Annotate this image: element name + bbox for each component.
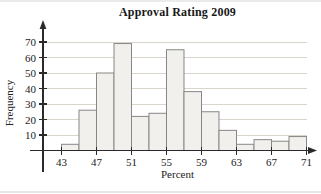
histogram-figure: Approval Rating 2009 Frequency 102030405…: [0, 0, 321, 194]
x-tick-label-47: 47: [91, 156, 103, 168]
bar-67-69: [272, 141, 290, 150]
x-tick-label-71: 71: [301, 156, 312, 168]
bar-45-47: [79, 110, 97, 150]
y-tick-label-50: 50: [25, 67, 37, 79]
x-tick-label-59: 59: [196, 156, 208, 168]
scan-artifact-bottom: [0, 191, 321, 193]
bar-43-45: [62, 144, 80, 150]
bar-57-59: [184, 92, 202, 151]
x-axis-arrow-icon: [308, 147, 317, 154]
bar-51-53: [132, 116, 150, 150]
histogram-plot: 102030405060704347515559636771: [0, 0, 321, 194]
bar-65-67: [254, 140, 272, 151]
bar-47-49: [97, 73, 115, 151]
bar-69-71: [289, 137, 307, 151]
x-tick-label-51: 51: [126, 156, 137, 168]
y-axis-arrow-icon: [40, 20, 47, 29]
bar-59-61: [202, 112, 220, 151]
y-tick-label-40: 40: [25, 83, 37, 95]
x-axis-label: Percent: [34, 168, 321, 180]
y-tick-label-70: 70: [25, 36, 37, 48]
y-tick-label-30: 30: [25, 98, 37, 110]
y-tick-label-60: 60: [25, 52, 37, 64]
bar-49-51: [114, 44, 132, 151]
bar-61-63: [219, 130, 237, 150]
bar-63-65: [237, 144, 255, 150]
x-tick-label-55: 55: [161, 156, 173, 168]
bar-55-57: [167, 50, 185, 151]
bar-53-55: [149, 113, 167, 150]
x-tick-label-67: 67: [266, 156, 278, 168]
x-tick-label-43: 43: [56, 156, 68, 168]
x-tick-label-63: 63: [231, 156, 243, 168]
y-tick-label-10: 10: [25, 129, 37, 141]
y-tick-label-20: 20: [25, 114, 37, 126]
